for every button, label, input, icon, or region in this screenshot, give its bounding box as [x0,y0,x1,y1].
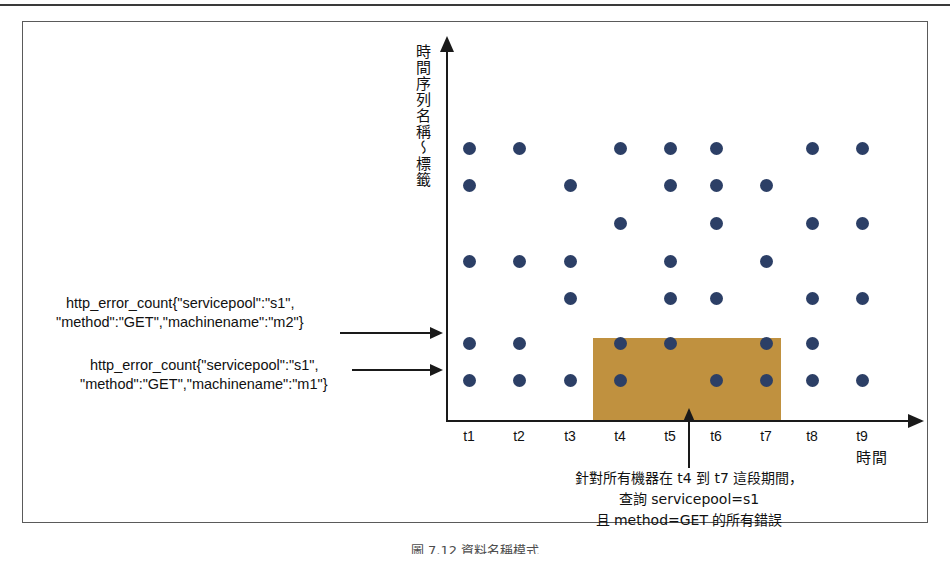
query-pointer-arrow-icon [683,408,695,422]
series-annotation-m1-line2: "method":"GET","machinename":"m1"} [80,375,328,394]
data-point [760,179,773,192]
data-point [856,374,869,387]
data-point [513,337,526,350]
data-point [806,292,819,305]
data-point [710,292,723,305]
data-point [664,337,677,350]
leader-arrow-m2-icon [430,327,443,339]
data-point [710,142,723,155]
data-point [463,374,476,387]
series-annotation-m2-line2: "method":"GET","machinename":"m2"} [56,313,304,332]
x-axis-line [446,420,912,422]
data-point [664,292,677,305]
figure-number-caption: 圖 7.12 資料名稱模式 [0,540,950,554]
data-point [710,374,723,387]
data-point [760,337,773,350]
x-tick-t7: t7 [746,428,786,444]
data-point [564,374,577,387]
series-annotation-m1: http_error_count{"servicepool":"s1", "me… [90,356,328,394]
x-tick-t4: t4 [600,428,640,444]
series-annotation-m1-line1: http_error_count{"servicepool":"s1", [90,357,319,373]
data-point [463,337,476,350]
data-point [664,142,677,155]
series-annotation-m2: http_error_count{"servicepool":"s1", "me… [66,294,304,332]
query-caption-line1: 針對所有機器在 t4 到 t7 這段期間， [503,468,875,489]
data-point [614,217,627,230]
data-point [806,374,819,387]
x-tick-t1: t1 [449,428,489,444]
leader-arrow-m1-icon [430,364,443,376]
data-point [564,179,577,192]
data-point [806,142,819,155]
data-point [614,374,627,387]
x-tick-t6: t6 [696,428,736,444]
query-caption: 針對所有機器在 t4 到 t7 這段期間， 查詢 servicepool=s1 … [503,468,875,531]
query-pointer-stem [688,421,690,468]
x-axis-label: 時間 [856,446,888,467]
x-tick-t5: t5 [650,428,690,444]
data-point [564,292,577,305]
data-point [614,142,627,155]
data-point [664,179,677,192]
data-point [760,374,773,387]
y-axis-arrow-icon [440,36,454,52]
y-axis-line [446,48,448,422]
x-tick-t2: t2 [499,428,539,444]
data-point [760,255,773,268]
data-point [463,255,476,268]
data-point [614,337,627,350]
query-caption-line2: 查詢 servicepool=s1 [503,489,875,510]
x-axis-arrow-icon [908,414,924,428]
data-point [710,179,723,192]
data-point [856,142,869,155]
data-point [463,142,476,155]
data-point [513,374,526,387]
data-point [564,255,577,268]
data-point [463,179,476,192]
leader-line-m2 [340,332,430,334]
y-axis-label: 時間序列名稱～標籤 [404,44,430,188]
x-tick-t8: t8 [792,428,832,444]
data-point [513,255,526,268]
data-point [856,217,869,230]
query-caption-line3: 且 method=GET 的所有錯誤 [503,510,875,531]
x-tick-t9: t9 [842,428,882,444]
data-point [710,217,723,230]
data-point [856,292,869,305]
x-tick-t3: t3 [550,428,590,444]
series-annotation-m2-line1: http_error_count{"servicepool":"s1", [66,295,295,311]
leader-line-m1 [352,369,430,371]
data-point [806,217,819,230]
data-point [806,337,819,350]
data-point [664,255,677,268]
data-point [513,142,526,155]
